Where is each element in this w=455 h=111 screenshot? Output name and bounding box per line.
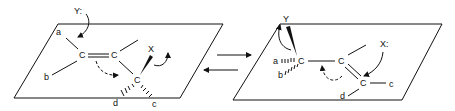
left-nucleophile-label: Y:	[74, 7, 82, 16]
right-carbon-3: C	[360, 79, 367, 88]
right-carbon-2: C	[338, 57, 345, 66]
left-wedge-x	[140, 55, 153, 75]
left-hash-c	[141, 85, 152, 97]
left-substituent-c: c	[152, 100, 157, 109]
left-plane	[14, 24, 223, 98]
mechanism-diagram	[0, 0, 455, 111]
right-nucleophile-label: Y	[283, 15, 289, 24]
left-carbon-3: C	[134, 76, 141, 85]
right-substituent-d: d	[340, 92, 345, 101]
right-substituent-b: b	[278, 71, 283, 80]
left-substituent-d: d	[113, 99, 118, 108]
left-carbon-1: C	[79, 51, 86, 60]
right-hash-b	[285, 64, 298, 75]
right-hash-a	[282, 58, 294, 63]
right-carbon-1: C	[298, 57, 305, 66]
right-substituent-a: a	[273, 57, 278, 66]
equilibrium-arrows	[204, 55, 251, 70]
left-substituent-b: b	[44, 73, 49, 82]
right-wedge-y	[286, 26, 297, 56]
right-molecule-bonds	[279, 25, 386, 96]
left-leaving-group-label: X	[148, 45, 154, 54]
left-hash-d	[121, 84, 134, 96]
right-substituent-c: c	[389, 80, 394, 89]
left-substituent-a: a	[56, 28, 61, 37]
right-leaving-group-label: X:	[380, 40, 389, 49]
left-carbon-2: C	[111, 51, 118, 60]
left-molecule-bonds	[52, 14, 168, 97]
